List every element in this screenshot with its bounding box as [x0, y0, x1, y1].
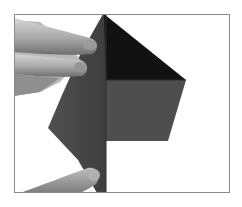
origami-photo [0, 0, 242, 207]
fingernail-lower [74, 62, 86, 72]
fingernail-upper [83, 40, 97, 50]
thumbnail [88, 169, 100, 181]
